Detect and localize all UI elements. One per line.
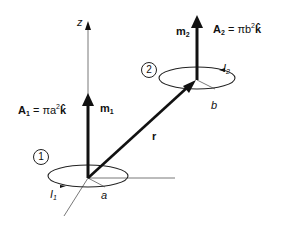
moment-symbol: m bbox=[100, 102, 110, 114]
m2-label: m2 bbox=[176, 26, 190, 38]
moment-subscript: 2 bbox=[186, 31, 190, 38]
m1-arrowhead-icon bbox=[82, 93, 94, 106]
area-expression: = πa bbox=[30, 104, 56, 116]
r-vector-label: r bbox=[152, 131, 156, 142]
area-expression: = πb bbox=[225, 23, 251, 35]
magnetic-moment-m2 bbox=[191, 15, 203, 80]
area-a2-label: A2 = πb2k̂ bbox=[213, 22, 261, 36]
current-i2-label: I2 bbox=[223, 63, 230, 75]
loop-2-number-badge: 2 bbox=[141, 62, 157, 78]
radius-a-label: a bbox=[101, 190, 107, 201]
loop-1-number-badge: 1 bbox=[33, 149, 49, 165]
y-axis bbox=[64, 178, 88, 216]
current-subscript: 2 bbox=[226, 68, 230, 75]
radius-a-line bbox=[88, 178, 105, 187]
current-i1-label: I1 bbox=[50, 189, 57, 201]
radius-b-label: b bbox=[211, 100, 217, 111]
z-axis-arrowhead-icon bbox=[85, 21, 91, 30]
m1-label: m1 bbox=[100, 103, 114, 115]
m2-arrowhead-icon bbox=[191, 15, 203, 28]
unit-vector-k: k̂ bbox=[60, 104, 66, 116]
area-symbol: A bbox=[18, 104, 26, 116]
moment-symbol: m bbox=[176, 25, 186, 37]
separation-vector-r bbox=[88, 80, 196, 178]
current-subscript: 1 bbox=[53, 194, 57, 201]
z-axis-label: z bbox=[77, 17, 83, 28]
moment-subscript: 1 bbox=[110, 108, 114, 115]
area-a1-label: A1 = πa2k̂ bbox=[18, 103, 66, 117]
unit-vector-k: k̂ bbox=[255, 23, 261, 35]
area-symbol: A bbox=[213, 23, 221, 35]
radius-b-line bbox=[197, 80, 215, 89]
